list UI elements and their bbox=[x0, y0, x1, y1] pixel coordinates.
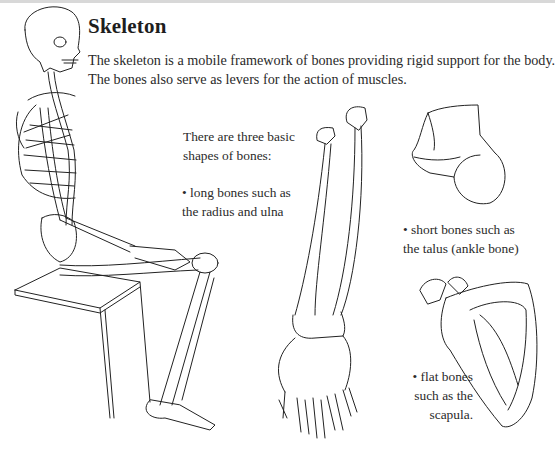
flat-bones-line-1: • flat bones bbox=[393, 367, 473, 386]
radius-ulna-illustration bbox=[255, 100, 395, 445]
short-bones-line-1: • short bones such as bbox=[403, 220, 555, 239]
short-bones-line-2: the talus (ankle bone) bbox=[403, 239, 555, 258]
seated-skeleton-illustration bbox=[0, 0, 250, 449]
short-bones-label: • short bones such as the talus (ankle b… bbox=[403, 220, 555, 258]
flat-bones-line-3: scapula. bbox=[393, 405, 473, 424]
talus-illustration bbox=[400, 95, 555, 205]
flat-bones-line-2: such as the bbox=[393, 386, 473, 405]
flat-bones-label: • flat bones such as the scapula. bbox=[393, 367, 473, 424]
